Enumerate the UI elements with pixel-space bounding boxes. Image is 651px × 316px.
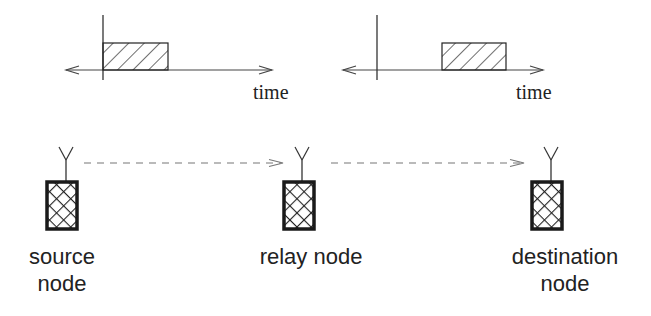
transmission-slot (103, 43, 168, 70)
link-source-to-relay (84, 160, 283, 167)
node-device-icon (532, 182, 562, 229)
transmission-slot (442, 43, 506, 70)
antenna-icon (295, 147, 309, 182)
relay-diagram: timetime sourcenoderelay nodedestination… (0, 0, 651, 316)
node-device-icon (47, 182, 77, 229)
node-device-icon (284, 182, 314, 229)
time-axis-label: time (253, 81, 289, 103)
timeline-relay-timeline: time (343, 15, 552, 103)
link-relay-to-destination (331, 160, 524, 167)
node-destination: destinationnode (512, 147, 618, 296)
node-label: node (541, 271, 590, 296)
node-label: relay node (260, 244, 363, 269)
antenna-icon (544, 147, 558, 182)
antenna-icon (59, 147, 73, 182)
node-source: sourcenode (29, 147, 95, 296)
node-label: node (38, 271, 87, 296)
timeline-source-timeline: time (66, 15, 289, 103)
node-label: source (29, 244, 95, 269)
time-axis-label: time (516, 81, 552, 103)
node-label: destination (512, 244, 618, 269)
